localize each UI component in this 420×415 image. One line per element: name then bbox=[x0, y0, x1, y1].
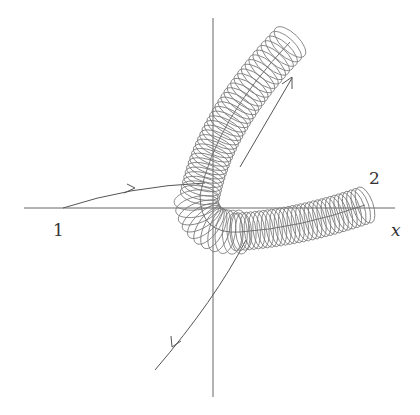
diagram-canvas: 1 2 x bbox=[0, 0, 420, 415]
label-x-axis: x bbox=[391, 220, 401, 240]
label-point-1: 1 bbox=[53, 220, 64, 240]
label-point-2: 2 bbox=[369, 168, 380, 188]
outgoing-trajectory bbox=[155, 240, 246, 370]
helix-tube bbox=[173, 22, 379, 255]
axes bbox=[24, 18, 395, 397]
incoming-trajectory bbox=[63, 183, 205, 208]
